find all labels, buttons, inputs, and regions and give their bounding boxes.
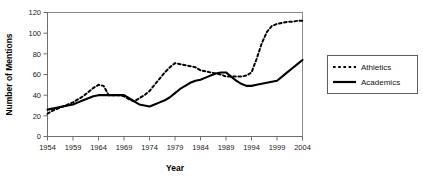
- y-axis-ticks: [44, 13, 48, 137]
- x-axis-tick-labels: 1954195919641969197419791984198919941999…: [39, 143, 311, 152]
- legend-box: [328, 56, 418, 94]
- x-tick-label: 1979: [167, 143, 184, 152]
- x-axis-ticks: [48, 137, 303, 141]
- y-tick-label: 80: [33, 50, 41, 59]
- x-tick-label: 1969: [116, 143, 133, 152]
- x-axis-title: Year: [166, 163, 185, 173]
- y-tick-label: 20: [33, 112, 41, 121]
- x-tick-label: 2004: [294, 143, 311, 152]
- y-tick-label: 0: [37, 132, 41, 141]
- legend-label-athletics: Athletics: [361, 63, 391, 72]
- x-tick-label: 1994: [243, 143, 260, 152]
- y-tick-label: 60: [33, 70, 41, 79]
- x-tick-label: 1989: [218, 143, 235, 152]
- y-tick-label: 120: [28, 8, 41, 17]
- line-chart: 0 20 40 60 80 100 120 195419591964196919…: [0, 0, 423, 181]
- x-tick-label: 1959: [65, 143, 82, 152]
- y-axis-title: Number of Mentions: [4, 33, 14, 115]
- y-tick-label: 40: [33, 91, 41, 100]
- chart-figure: 0 20 40 60 80 100 120 195419591964196919…: [0, 0, 423, 181]
- x-tick-label: 1984: [192, 143, 209, 152]
- series-line-academics: [48, 60, 303, 110]
- legend-label-academics: Academics: [361, 78, 400, 87]
- x-tick-label: 1964: [90, 143, 107, 152]
- x-tick-label: 1974: [141, 143, 158, 152]
- legend: Athletics Academics: [328, 56, 418, 94]
- x-tick-label: 1999: [269, 143, 286, 152]
- y-axis-tick-labels: 0 20 40 60 80 100 120: [28, 8, 41, 141]
- x-tick-label: 1954: [39, 143, 56, 152]
- y-tick-label: 100: [28, 29, 41, 38]
